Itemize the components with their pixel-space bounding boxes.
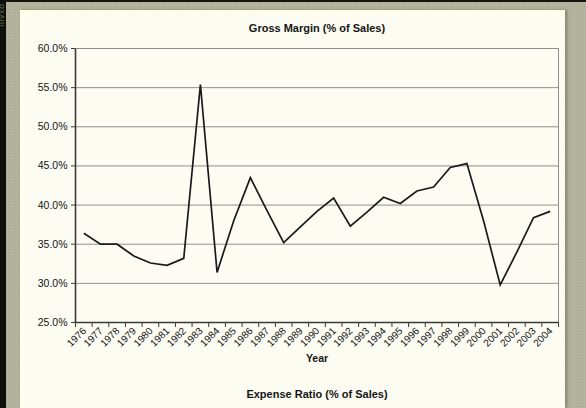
x-tick-label: 2004	[531, 325, 555, 349]
scan-top-edge	[0, 0, 586, 2]
next-chart-title: Expense Ratio (% of Sales)	[75, 388, 559, 400]
y-tick-label: 40.0%	[38, 199, 68, 211]
y-tick-label: 55.0%	[38, 81, 68, 93]
x-axis-title: Year	[75, 352, 559, 364]
y-tick-label: 35.0%	[38, 238, 68, 250]
scanned-page: OXAIII Gross Margin (% of Sales) Year Ex…	[0, 0, 586, 408]
y-tick-label: 60.0%	[38, 42, 68, 54]
y-tick-label: 50.0%	[38, 120, 68, 132]
y-tick-label: 25.0%	[38, 316, 68, 328]
book-spine-strip: OXAIII	[0, 0, 6, 408]
series-line	[84, 85, 550, 285]
plot-border	[76, 49, 559, 323]
chart-title: Gross Margin (% of Sales)	[75, 22, 559, 34]
spine-text: OXAIII	[0, 4, 5, 28]
y-tick-label: 45.0%	[38, 159, 68, 171]
y-tick-label: 30.0%	[38, 277, 68, 289]
gross-margin-chart: 25.0%30.0%35.0%40.0%45.0%50.0%55.0%60.0%…	[0, 0, 586, 408]
